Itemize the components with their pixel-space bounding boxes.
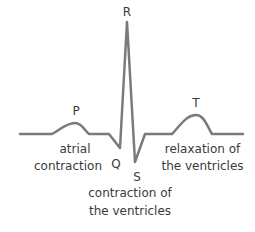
annotation-relaxation-line2: the ventricles: [155, 158, 250, 174]
annotation-ventricular-contraction-line1: contraction of: [85, 185, 175, 201]
label-s-wave: S: [130, 169, 144, 185]
annotation-relaxation-line1: relaxation of: [155, 141, 250, 157]
label-p-wave: P: [69, 103, 83, 119]
annotation-atrial-line2: contraction: [28, 158, 108, 174]
label-q-wave: Q: [109, 156, 123, 172]
annotation-atrial-line1: atrial: [45, 141, 105, 157]
label-r-wave: R: [120, 4, 134, 20]
annotation-ventricular-contraction-line2: the ventricles: [85, 203, 175, 219]
label-t-wave: T: [189, 95, 203, 111]
